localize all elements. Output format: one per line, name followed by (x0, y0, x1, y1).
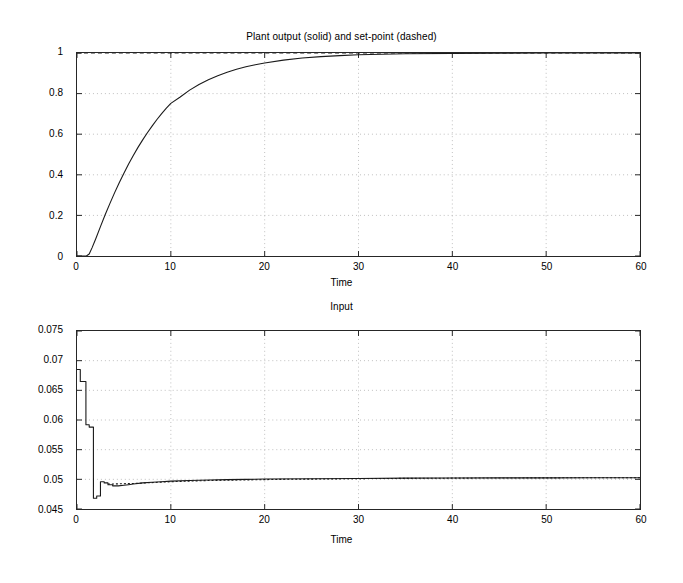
axes-plant-output: Plant output (solid) and set-point (dash… (0, 0, 683, 290)
axes-input: Input 0.0450.050.0550.060.0650.070.075 0… (0, 290, 683, 583)
plot-canvas-plant-output (77, 53, 640, 256)
x-tick-label: 20 (259, 515, 270, 525)
x-tick-label: 0 (73, 262, 79, 272)
plot-title-input: Input (0, 301, 683, 313)
x-tick-label: 40 (447, 515, 458, 525)
y-tick-label: 0.075 (38, 325, 70, 335)
y-tick-label: 0.6 (49, 129, 70, 139)
x-tick-label: 0 (73, 515, 79, 525)
y-tick-label: 0.05 (44, 475, 70, 485)
y-tick-label: 0.2 (49, 211, 70, 221)
plot-canvas-input (77, 331, 640, 509)
x-tick-label: 60 (635, 262, 646, 272)
y-tick-label: 0.4 (49, 170, 70, 180)
plot-area-input (76, 330, 641, 510)
y-tick-label: 0.065 (38, 385, 70, 395)
x-axis-label-input: Time (0, 534, 683, 546)
x-tick-label: 40 (447, 262, 458, 272)
x-tick-label: 10 (165, 515, 176, 525)
plot-title-plant-output: Plant output (solid) and set-point (dash… (0, 31, 683, 43)
x-tick-label: 50 (541, 515, 552, 525)
y-tick-label: 0 (57, 252, 70, 262)
plot-area-plant-output (76, 52, 641, 257)
x-tick-label: 30 (353, 262, 364, 272)
x-tick-label: 60 (635, 515, 646, 525)
x-tick-label: 30 (353, 515, 364, 525)
y-tick-label: 0.8 (49, 88, 70, 98)
y-tick-label: 0.07 (44, 355, 70, 365)
y-tick-label: 1 (57, 47, 70, 57)
figure-canvas: Plant output (solid) and set-point (dash… (0, 0, 683, 583)
x-axis-label-plant-output: Time (0, 277, 683, 289)
y-tick-label: 0.045 (38, 505, 70, 515)
x-tick-label: 10 (165, 262, 176, 272)
y-tick-label: 0.055 (38, 445, 70, 455)
y-tick-label: 0.06 (44, 415, 70, 425)
x-tick-label: 50 (541, 262, 552, 272)
data-series-line (77, 53, 640, 256)
x-tick-label: 20 (259, 262, 270, 272)
